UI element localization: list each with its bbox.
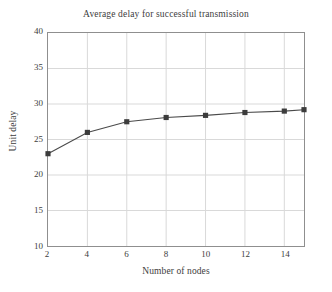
x-axis-tick-label: 4 xyxy=(75,249,99,259)
y-axis-tick-label: 35 xyxy=(15,62,43,72)
x-axis-tick-label: 6 xyxy=(114,249,138,259)
data-point-marker xyxy=(45,151,50,156)
x-axis-title: Number of nodes xyxy=(47,266,305,276)
x-axis-tick-label: 10 xyxy=(194,249,218,259)
y-axis-tick-label: 25 xyxy=(15,134,43,144)
x-axis-tick-label: 12 xyxy=(233,249,257,259)
chart-title: Average delay for successful transmissio… xyxy=(0,9,332,19)
data-point-marker xyxy=(242,110,247,115)
data-point-marker xyxy=(282,109,287,114)
x-axis-tick-label: 8 xyxy=(154,249,178,259)
data-point-marker xyxy=(203,113,208,118)
data-point-marker xyxy=(85,130,90,135)
y-axis-tick-label: 15 xyxy=(15,205,43,215)
y-axis-tick-label: 30 xyxy=(15,98,43,108)
y-axis-tick-label: 40 xyxy=(15,26,43,36)
chart-page: Average delay for successful transmissio… xyxy=(0,0,332,292)
x-axis-tick-label: 2 xyxy=(35,249,59,259)
data-series xyxy=(48,33,304,246)
plot-area xyxy=(47,32,305,247)
data-point-marker xyxy=(124,119,129,124)
y-axis-tick-labels: 10152025303540 xyxy=(13,32,43,247)
data-point-marker xyxy=(164,115,169,120)
data-point-marker xyxy=(301,107,306,112)
y-axis-tick-label: 20 xyxy=(15,169,43,179)
x-axis-tick-label: 14 xyxy=(273,249,297,259)
x-axis-tick-labels: 2468101214 xyxy=(47,249,305,265)
